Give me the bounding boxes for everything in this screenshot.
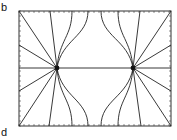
field-line [19,68,57,91]
field-line [57,68,88,126]
field-line [101,11,133,68]
field-line [133,68,171,91]
field-line [133,45,171,68]
field-line [101,68,133,126]
boundary-ticks [19,11,171,126]
field-line [133,68,141,126]
point-charge-2 [131,66,136,71]
field-line [49,68,57,126]
field-line [19,45,57,68]
point-charge-1 [55,66,60,71]
field-line-diagram [0,0,177,140]
field-line [19,68,57,126]
field-lines [19,11,171,126]
field-line [57,11,88,68]
field-line [133,68,171,126]
boundary-box [19,11,171,126]
